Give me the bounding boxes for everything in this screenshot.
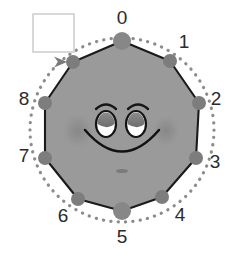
right-cheek-blush <box>151 114 181 148</box>
polygon-vertex-7 <box>38 151 52 165</box>
vertex-label-5: 5 <box>117 226 128 247</box>
empty-legend-box <box>33 14 74 52</box>
left-eye <box>96 111 116 137</box>
polygon-vertex-0 <box>113 32 131 50</box>
chin-mark <box>116 169 128 173</box>
vertex-label-7: 7 <box>19 145 30 166</box>
vertex-label-1: 1 <box>179 31 190 52</box>
left-cheek-blush <box>61 112 95 150</box>
polygon-vertex-5 <box>113 202 131 220</box>
polygon-vertex-3 <box>189 151 203 165</box>
polygon-vertex-6 <box>71 192 85 206</box>
vertex-label-8: 8 <box>19 88 30 109</box>
decagon-smiley-figure: 012345678 <box>0 0 232 262</box>
polygon-vertex-4 <box>155 190 169 204</box>
vertex-label-6: 6 <box>58 205 69 226</box>
vertex-label-2: 2 <box>211 88 222 109</box>
figure-canvas: 012345678 <box>0 0 232 262</box>
polygon-vertex-2 <box>192 96 206 110</box>
vertex-label-0: 0 <box>117 7 128 28</box>
polygon-vertex-1 <box>163 54 177 68</box>
vertex-label-3: 3 <box>210 151 221 172</box>
vertex-label-4: 4 <box>175 204 186 225</box>
polygon-vertex-9 <box>66 55 80 69</box>
right-eye <box>126 111 146 137</box>
polygon-vertex-8 <box>38 96 52 110</box>
